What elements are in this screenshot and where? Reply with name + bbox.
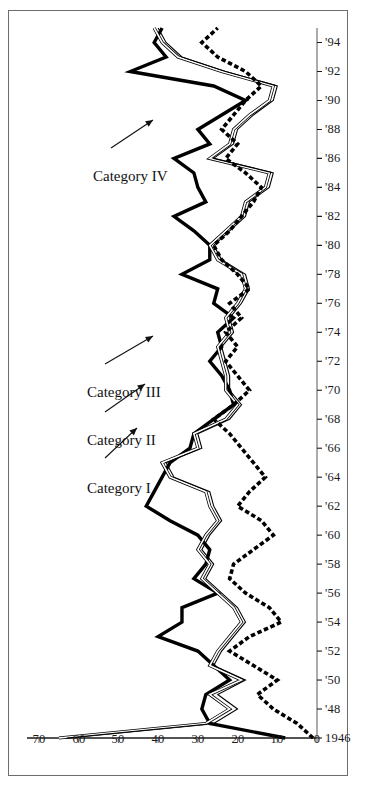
x-axis-tick-label: '70 bbox=[325, 383, 340, 398]
x-axis-tick-label: '92 bbox=[325, 64, 340, 79]
y-axis-tick-label: 50 bbox=[111, 732, 124, 747]
y-axis-tick-label: 0 bbox=[313, 732, 319, 747]
annotation-leader-cat3 bbox=[105, 336, 153, 364]
y-axis-tick-label: 40 bbox=[151, 732, 164, 747]
x-axis-tick-label: '86 bbox=[325, 151, 340, 166]
y-axis-tick-label: 70 bbox=[32, 732, 45, 747]
y-axis-tick-label: 60 bbox=[72, 732, 85, 747]
series-group bbox=[58, 28, 312, 738]
x-axis-tick-label: '74 bbox=[325, 325, 340, 340]
x-axis-tick-label: '72 bbox=[325, 354, 340, 369]
x-axis-tick-label: '48 bbox=[325, 702, 340, 717]
x-axis-tick-label: 1946 bbox=[325, 731, 351, 746]
plot-svg bbox=[13, 14, 353, 780]
x-axis-tick-label: '82 bbox=[325, 209, 340, 224]
x-axis-tick-label: '54 bbox=[325, 615, 340, 630]
annotation-label-cat1: Category I bbox=[87, 480, 151, 497]
y-axis-tick-label: 10 bbox=[270, 732, 283, 747]
x-axis-tick-label: '64 bbox=[325, 470, 340, 485]
annotation-arrowhead-cat4 bbox=[145, 120, 153, 127]
axes-group bbox=[27, 28, 322, 743]
x-axis-tick-label: '62 bbox=[325, 499, 340, 514]
plot-area: 1946'48'50'52'54'56'58'60'62'64'66'68'70… bbox=[13, 14, 353, 780]
x-axis-tick-label: '56 bbox=[325, 586, 340, 601]
x-axis-tick-label: '76 bbox=[325, 296, 340, 311]
x-axis-tick-label: '84 bbox=[325, 180, 340, 195]
y-axis-tick-label: 30 bbox=[191, 732, 204, 747]
annotation-arrowhead-cat3 bbox=[145, 336, 153, 343]
annotation-label-cat3: Category III bbox=[87, 384, 161, 401]
x-axis-tick-label: '94 bbox=[325, 35, 340, 50]
line-chart: 1946'48'50'52'54'56'58'60'62'64'66'68'70… bbox=[13, 14, 353, 780]
x-axis-tick-label: '90 bbox=[325, 93, 340, 108]
x-axis-tick-label: '78 bbox=[325, 267, 340, 282]
y-axis-tick-label: 20 bbox=[231, 732, 244, 747]
x-axis-tick-label: '60 bbox=[325, 528, 340, 543]
x-axis-tick-label: '88 bbox=[325, 122, 340, 137]
x-axis-tick-label: '52 bbox=[325, 644, 340, 659]
x-axis-tick-label: '68 bbox=[325, 412, 340, 427]
annotation-leader-cat4 bbox=[111, 120, 153, 148]
x-axis-tick-label: '50 bbox=[325, 673, 340, 688]
series-line-4 bbox=[201, 28, 312, 738]
x-axis-tick-label: '58 bbox=[325, 557, 340, 572]
x-axis-tick-label: '80 bbox=[325, 238, 340, 253]
rotated-figure-wrapper: 1946'48'50'52'54'56'58'60'62'64'66'68'70… bbox=[0, 0, 365, 794]
annotation-label-cat2: Category II bbox=[87, 432, 156, 449]
annotation-label-cat4: Category IV bbox=[93, 168, 168, 185]
x-axis-tick-label: '66 bbox=[325, 441, 340, 456]
